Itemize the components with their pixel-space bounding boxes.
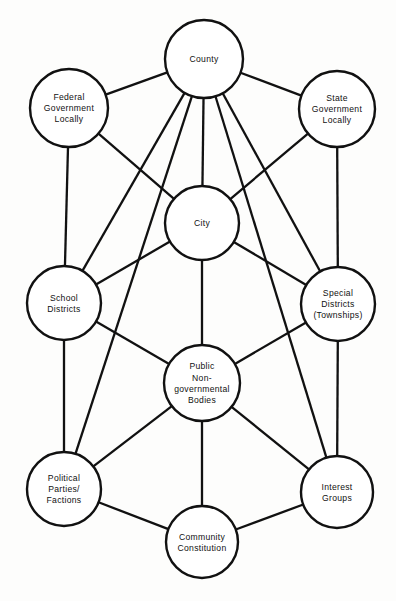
edge-public-nongovernmental-bodies-to-political-parties-factions — [93, 406, 172, 466]
network-diagram: CountyFederalGovernmentLocallyStateGover… — [0, 0, 396, 601]
edge-federal-government-locally-to-school-districts — [65, 147, 68, 266]
node-federal-government-locally[interactable]: FederalGovernmentLocally — [30, 69, 108, 147]
node-label-city: City — [194, 218, 210, 228]
node-label-school-districts: SchoolDistricts — [47, 293, 80, 314]
node-political-parties-factions[interactable]: PoliticalParties/Factions — [27, 452, 101, 526]
edge-interest-groups-to-community-constitution — [236, 505, 303, 530]
edge-state-government-locally-to-special-districts-townships — [337, 147, 338, 267]
edge-county-to-federal-government-locally — [106, 72, 168, 94]
node-city[interactable]: City — [165, 186, 239, 260]
node-label-county: County — [189, 54, 218, 64]
edge-special-districts-townships-to-interest-groups — [337, 341, 338, 456]
node-community-constitution[interactable]: CommunityConstitution — [166, 506, 238, 578]
node-special-districts-townships[interactable]: SpecialDistricts(Townships) — [301, 267, 375, 341]
edge-county-to-state-government-locally — [241, 73, 302, 96]
edges-layer — [64, 72, 338, 529]
node-label-community-constitution: CommunityConstitution — [178, 532, 227, 553]
node-label-political-parties-factions: PoliticalParties/Factions — [47, 473, 82, 505]
node-public-nongovernmental-bodies[interactable]: PublicNon-governmentalBodies — [164, 345, 240, 421]
edge-county-to-city — [202, 98, 203, 186]
node-state-government-locally[interactable]: StateGovernmentLocally — [299, 71, 375, 147]
edge-federal-government-locally-to-city — [99, 134, 175, 199]
node-school-districts[interactable]: SchoolDistricts — [27, 266, 101, 340]
node-label-interest-groups: InterestGroups — [321, 482, 352, 503]
network-diagram-canvas: CountyFederalGovernmentLocallyStateGover… — [0, 0, 396, 601]
edge-state-government-locally-to-city — [230, 134, 308, 200]
edge-public-nongovernmental-bodies-to-interest-groups — [232, 407, 309, 470]
node-interest-groups[interactable]: InterestGroups — [301, 456, 373, 528]
node-county[interactable]: County — [165, 20, 243, 98]
edge-political-parties-factions-to-community-constitution — [99, 502, 169, 529]
edge-city-to-special-districts-townships — [234, 242, 306, 285]
